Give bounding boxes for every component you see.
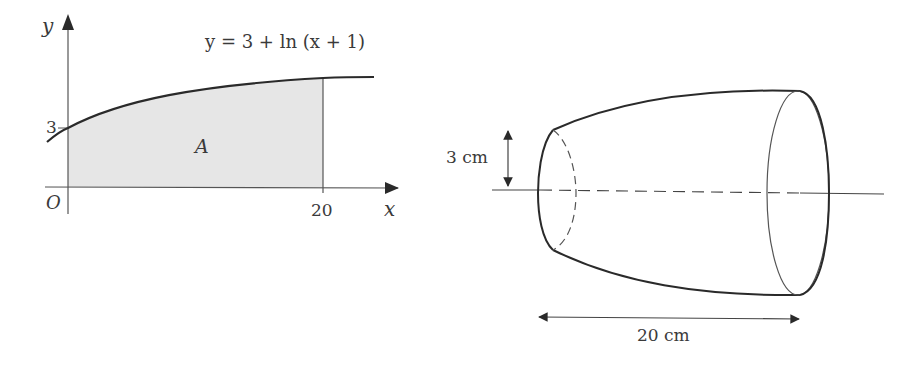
x-tick-label-20: 20 <box>311 200 333 220</box>
x-axis <box>45 187 398 188</box>
length-dimension-arrow <box>539 317 799 319</box>
solid-panel: 3 cm 20 cm <box>446 91 884 345</box>
origin-label: O <box>46 192 61 213</box>
x-axis-arrow-icon <box>385 182 399 194</box>
y-axis-arrow-icon <box>62 14 74 30</box>
equation-label: y = 3 + ln (x + 1) <box>204 31 365 52</box>
region-label-a: A <box>193 135 209 157</box>
axis-line-hidden <box>540 190 800 193</box>
shaded-region-a <box>68 78 323 187</box>
length-label: 20 cm <box>637 325 690 345</box>
y-intercept-label: 3 <box>46 117 57 137</box>
solid-top-edge <box>553 91 800 130</box>
solid-bottom-edge <box>553 250 800 295</box>
figure-canvas: y x O 3 20 A y = 3 + ln (x + 1) 3 cm 20 … <box>0 0 915 365</box>
x-axis-label: x <box>384 197 395 221</box>
axis-line-right <box>800 193 884 194</box>
y-axis-label: y <box>41 14 54 38</box>
radius-label: 3 cm <box>446 147 488 167</box>
graph-panel: y x O 3 20 A y = 3 + ln (x + 1) <box>41 14 399 221</box>
